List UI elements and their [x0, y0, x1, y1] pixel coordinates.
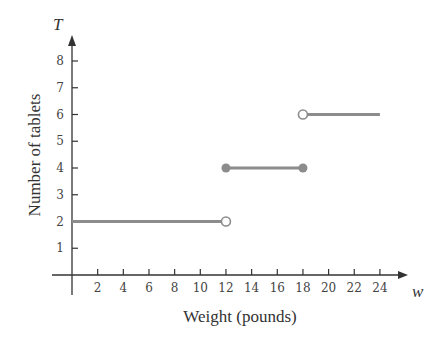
x-axis-arrow-icon: [398, 271, 408, 279]
x-tick-label: 24: [372, 281, 388, 295]
y-tick-label: 2: [56, 215, 64, 229]
x-axis-variable: w: [412, 282, 424, 301]
closed-endpoint-dot: [221, 164, 230, 173]
x-tick-label: 12: [218, 281, 233, 295]
y-tick-label: 8: [56, 54, 64, 68]
open-endpoint-circle: [298, 110, 307, 119]
data-segments: [72, 110, 380, 226]
x-tick-label: 14: [244, 281, 260, 295]
open-endpoint-circle: [221, 217, 230, 226]
x-axis-title: Weight (pounds): [183, 307, 296, 326]
step-function-chart: 2468101214161820222412345678 T w Weight …: [0, 0, 430, 351]
x-tick-label: 10: [193, 281, 208, 295]
x-tick-label: 18: [295, 281, 310, 295]
y-axis-title: Number of tablets: [25, 94, 44, 217]
y-tick-label: 7: [56, 81, 64, 95]
x-tick-label: 6: [145, 281, 153, 295]
x-tick-label: 16: [270, 281, 285, 295]
y-tick-label: 3: [56, 188, 64, 202]
y-tick-label: 4: [56, 161, 64, 175]
y-tick-label: 5: [56, 134, 64, 148]
x-tick-label: 8: [171, 281, 179, 295]
x-tick-label: 4: [119, 281, 127, 295]
y-tick-label: 1: [56, 241, 64, 255]
axes: [52, 35, 408, 295]
x-tick-label: 22: [347, 281, 362, 295]
ticks: 2468101214161820222412345678: [56, 54, 388, 295]
y-tick-label: 6: [56, 108, 64, 122]
x-tick-label: 20: [321, 281, 336, 295]
x-tick-label: 2: [94, 281, 102, 295]
y-axis-variable: T: [53, 15, 64, 34]
closed-endpoint-dot: [298, 164, 307, 173]
y-axis-arrow-icon: [68, 35, 76, 46]
